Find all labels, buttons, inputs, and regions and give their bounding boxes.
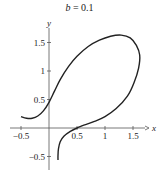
x-axis-arrow-icon bbox=[145, 126, 149, 130]
plot-area: xy−0.50.511.5−0.50.511.5 bbox=[0, 0, 159, 177]
axes bbox=[10, 28, 149, 170]
x-axis-label: x bbox=[151, 123, 156, 133]
y-tick-label: 0.5 bbox=[34, 95, 46, 105]
y-tick-label: 1.5 bbox=[34, 38, 46, 48]
y-tick-label: −0.5 bbox=[29, 152, 46, 162]
x-tick-label: −0.5 bbox=[13, 131, 30, 141]
x-tick-label: 1.5 bbox=[127, 131, 139, 141]
x-tick-label: 1 bbox=[103, 131, 108, 141]
y-tick-label: 1 bbox=[41, 66, 46, 76]
x-tick-label: 0.5 bbox=[71, 131, 83, 141]
tick-labels: xy−0.50.511.5−0.50.511.5 bbox=[13, 18, 156, 162]
y-axis-label: y bbox=[46, 18, 51, 28]
